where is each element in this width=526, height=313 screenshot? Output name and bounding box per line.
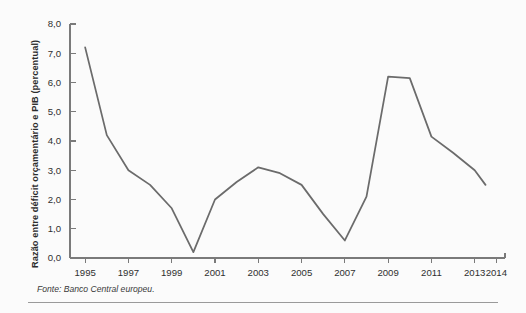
x-tick-label: 2003 bbox=[248, 267, 269, 278]
x-tick-label: 2009 bbox=[377, 267, 398, 278]
y-tick-label: 8,0 bbox=[48, 18, 61, 29]
y-tick-label: 7,0 bbox=[48, 48, 61, 59]
source-note: Fonte: Banco Central europeu. bbox=[37, 284, 155, 294]
y-axis-title: Razão entre déficit orçamentário e PIB (… bbox=[30, 40, 40, 268]
chart-axes: 0,01,02,03,04,05,06,07,08,01995199719992… bbox=[48, 18, 508, 278]
x-tick-label: 2007 bbox=[334, 267, 355, 278]
x-tick-label: 2014 bbox=[486, 267, 508, 278]
y-tick-label: 5,0 bbox=[48, 106, 61, 117]
y-tick-label: 6,0 bbox=[48, 77, 61, 88]
y-tick-label: 3,0 bbox=[48, 165, 61, 176]
x-tick-label: 2005 bbox=[291, 267, 312, 278]
data-series-line bbox=[85, 47, 485, 252]
y-tick-label: 2,0 bbox=[48, 194, 61, 205]
y-tick-label: 1,0 bbox=[48, 223, 61, 234]
x-tick-label: 1999 bbox=[161, 267, 182, 278]
y-tick-label: 0,0 bbox=[48, 252, 61, 263]
x-tick-label: 1995 bbox=[74, 267, 95, 278]
y-tick-label: 4,0 bbox=[48, 135, 61, 146]
x-tick-label: 2011 bbox=[421, 267, 442, 278]
x-tick-label: 2013 bbox=[464, 267, 485, 278]
line-chart: Razão entre déficit orçamentário e PIB (… bbox=[0, 0, 526, 284]
chart-footer: Fonte: Banco Central europeu. bbox=[0, 284, 526, 313]
chart-page: Razão entre déficit orçamentário e PIB (… bbox=[0, 0, 526, 313]
x-tick-label: 2001 bbox=[204, 267, 225, 278]
footer-divider bbox=[28, 302, 498, 303]
chart-figure: Razão entre déficit orçamentário e PIB (… bbox=[0, 0, 526, 284]
x-tick-label: 1997 bbox=[118, 267, 139, 278]
